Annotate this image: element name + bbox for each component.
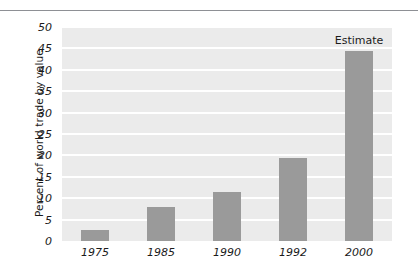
- x-axis-tick-label: 1990: [192, 246, 262, 259]
- y-axis-tick-label: 30: [12, 106, 52, 119]
- bar: [147, 207, 175, 241]
- gridline: [62, 176, 392, 178]
- y-axis-tick-label: 40: [12, 63, 52, 76]
- gridline: [62, 112, 392, 114]
- bar-chart-figure: Percent of world trade by value 05101520…: [0, 0, 418, 277]
- gridline: [62, 47, 392, 49]
- y-axis-tick-label: 50: [12, 21, 52, 34]
- y-axis-tick-label: 35: [12, 85, 52, 98]
- y-axis-tick-label: 25: [12, 128, 52, 141]
- y-axis-tick-label: 20: [12, 149, 52, 162]
- top-divider-rule: [0, 10, 418, 11]
- bar: [279, 158, 307, 241]
- y-axis-tick-label: 45: [12, 42, 52, 55]
- gridline: [62, 69, 392, 71]
- plot-area: [62, 27, 392, 241]
- y-axis-tick-label: 5: [12, 213, 52, 226]
- x-axis-tick-label: 1992: [258, 246, 328, 259]
- gridline: [62, 26, 392, 28]
- y-axis-tick-label: 10: [12, 192, 52, 205]
- gridline: [62, 154, 392, 156]
- x-axis-tick-label: 2000: [324, 246, 394, 259]
- y-axis-tick-label: 15: [12, 170, 52, 183]
- gridline: [62, 90, 392, 92]
- y-axis-tick-label: 0: [12, 235, 52, 248]
- estimate-annotation: Estimate: [324, 34, 394, 47]
- x-axis-tick-label: 1985: [126, 246, 196, 259]
- bar: [213, 192, 241, 241]
- gridline: [62, 133, 392, 135]
- bar: [345, 51, 373, 241]
- x-axis-tick-label: 1975: [60, 246, 130, 259]
- bar: [81, 230, 109, 241]
